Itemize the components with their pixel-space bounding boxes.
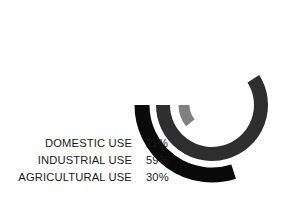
legend-row-agricultural: AGRICULTURAL USE 30% — [0, 168, 186, 185]
legend-label-industrial: INDUSTRIAL USE — [38, 154, 132, 166]
legend-row-industrial: INDUSTRIAL USE 59% — [0, 151, 186, 168]
radial-chart-figure: DOMESTIC USE 11% INDUSTRIAL USE 59% AGRI… — [0, 0, 303, 218]
legend-value-domestic: 11% — [146, 137, 186, 149]
legend-value-industrial: 59% — [146, 154, 186, 166]
chart-legend: DOMESTIC USE 11% INDUSTRIAL USE 59% AGRI… — [0, 0, 186, 218]
legend-label-agricultural: AGRICULTURAL USE — [18, 171, 132, 183]
legend-row-domestic: DOMESTIC USE 11% — [0, 134, 186, 151]
legend-value-agricultural: 30% — [146, 171, 186, 183]
legend-label-domestic: DOMESTIC USE — [45, 137, 132, 149]
